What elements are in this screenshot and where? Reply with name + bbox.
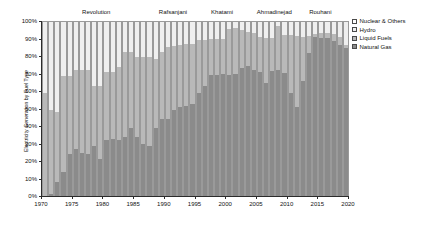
legend-item[interactable]: Liquid Fuels [352, 34, 430, 42]
x-tick-label: 1990 [157, 201, 170, 207]
y-tick-mark [39, 21, 42, 22]
y-tick-mark [39, 109, 42, 110]
x-tick-mark [225, 196, 226, 199]
y-tick-mark [39, 161, 42, 162]
x-tick-mark [164, 196, 165, 199]
chart-root: Electricity Generation by Fuel Type 0%10… [0, 0, 431, 225]
x-axis-tick-labels: 1970197519801985199019952000200520102015… [41, 196, 348, 218]
x-tick-mark [195, 196, 196, 199]
legend-swatch [352, 27, 357, 32]
x-tick-mark [348, 196, 349, 199]
y-tick-mark [39, 91, 42, 92]
legend-label: Hydro [360, 26, 376, 34]
x-tick-label: 2020 [341, 201, 354, 207]
x-tick-label: 2005 [249, 201, 262, 207]
x-tick-mark [102, 196, 103, 199]
y-tick-mark [39, 179, 42, 180]
x-tick-label: 2010 [280, 201, 293, 207]
y-tick-label: 50% [25, 106, 37, 112]
y-tick-label: 30% [25, 141, 37, 147]
y-tick-label: 100% [22, 18, 37, 24]
y-tick-label: 60% [25, 88, 37, 94]
legend-item[interactable]: Natural Gas [352, 43, 430, 51]
x-tick-mark [317, 196, 318, 199]
y-tick-mark [39, 144, 42, 145]
x-tick-label: 1995 [188, 201, 201, 207]
y-tick-mark [39, 56, 42, 57]
bar-segment [343, 22, 349, 45]
legend-swatch [352, 36, 357, 41]
y-tick-mark [39, 126, 42, 127]
legend-swatch [352, 44, 357, 49]
y-tick-label: 70% [25, 71, 37, 77]
y-tick-label: 80% [25, 53, 37, 59]
y-axis-tick-labels: 0%10%20%30%40%50%60%70%80%90%100% [0, 0, 40, 225]
x-tick-label: 1980 [96, 201, 109, 207]
bars-layer [42, 21, 349, 196]
era-label: Revolution [82, 9, 110, 15]
x-tick-mark [41, 196, 42, 199]
legend-label: Nuclear & Others [360, 17, 406, 25]
x-tick-label: 1975 [65, 201, 78, 207]
bar-column[interactable] [343, 21, 349, 196]
y-tick-label: 90% [25, 36, 37, 42]
legend-item[interactable]: Nuclear & Others [352, 17, 430, 25]
legend-item[interactable]: Hydro [352, 26, 430, 34]
x-tick-mark [287, 196, 288, 199]
era-label: Ahmadinejad [257, 9, 292, 15]
legend-label: Liquid Fuels [360, 34, 392, 42]
era-label: Khatami [211, 9, 233, 15]
y-tick-mark [39, 74, 42, 75]
y-tick-label: 40% [25, 123, 37, 129]
legend-label: Natural Gas [360, 43, 392, 51]
y-tick-mark [39, 39, 42, 40]
x-tick-label: 2000 [219, 201, 232, 207]
era-label: Rouhani [309, 9, 331, 15]
y-tick-label: 0% [28, 193, 37, 199]
plot-area [41, 21, 349, 197]
era-annotations: RevolutionRafsanjaniKhatamiAhmadinejadRo… [41, 9, 348, 21]
x-tick-label: 2015 [311, 201, 324, 207]
y-tick-label: 10% [25, 176, 37, 182]
y-tick-label: 20% [25, 158, 37, 164]
legend: Nuclear & OthersHydroLiquid FuelsNatural… [352, 17, 430, 51]
x-tick-mark [256, 196, 257, 199]
x-tick-mark [133, 196, 134, 199]
bar-segment [343, 48, 349, 196]
era-label: Rafsanjani [159, 9, 187, 15]
x-tick-mark [72, 196, 73, 199]
x-tick-label: 1985 [126, 201, 139, 207]
legend-swatch [352, 19, 357, 24]
x-tick-label: 1970 [34, 201, 47, 207]
